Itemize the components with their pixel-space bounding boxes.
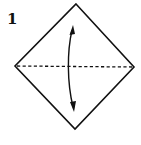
origami-diagram xyxy=(0,0,141,145)
